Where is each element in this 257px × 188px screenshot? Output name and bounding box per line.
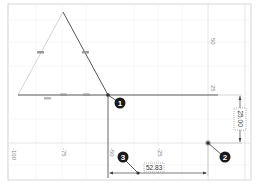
y-tick-label: 50: [210, 38, 216, 45]
callout-1: 1: [115, 98, 126, 109]
sketch-canvas[interactable]: -100 -75 -50 -25 50 25 25.00 52.83: [0, 0, 257, 188]
horizontal-constraint-icon[interactable]: [60, 94, 67, 97]
y-tick-label: 25: [210, 85, 216, 92]
x-tick-label: -75: [61, 148, 67, 157]
callout-2: 2: [220, 152, 231, 163]
vertical-dimension-value[interactable]: 25.00: [237, 111, 244, 128]
x-tick-label: -100: [11, 148, 17, 161]
callout-number: 2: [223, 153, 228, 162]
equal-constraint-icon[interactable]: [82, 51, 89, 54]
coincident-constraint-icon[interactable]: [44, 97, 51, 100]
callout-number: 3: [121, 153, 126, 162]
equal-constraint-icon[interactable]: [37, 51, 44, 54]
canvas-frame: [8, 4, 251, 180]
callout-3: 3: [118, 152, 129, 163]
x-tick-label: -50: [109, 148, 115, 157]
horizontal-constraint-icon[interactable]: [83, 94, 90, 97]
x-tick-label: -25: [157, 148, 163, 157]
horizontal-dimension-value[interactable]: 52.83: [146, 164, 163, 171]
callout-number: 1: [118, 99, 123, 108]
